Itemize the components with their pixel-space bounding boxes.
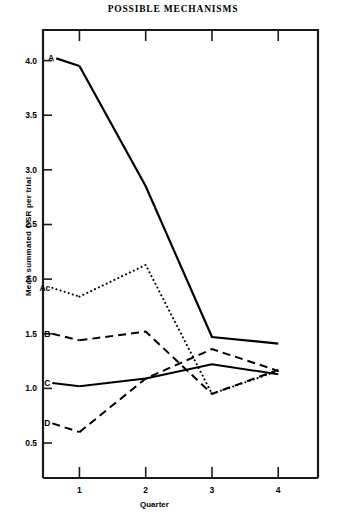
series-line-C (79, 364, 278, 386)
plot-frame (43, 30, 318, 478)
series-label-Ac: Ac (39, 283, 50, 293)
series-leader-A (56, 58, 79, 66)
series-leader-C (52, 383, 79, 386)
x-tick-label: 1 (77, 485, 82, 495)
x-axis-label: Quarter (140, 500, 169, 509)
series-label-A: A (48, 53, 54, 63)
series-label-D: D (44, 418, 50, 428)
y-tick-label: 1.0 (25, 383, 37, 393)
axis-tick-labels: 0.51.01.52.02.53.03.54.01234 (25, 56, 281, 495)
series-line-Ac (79, 265, 278, 394)
axis-ticks (43, 30, 278, 478)
series-label-B: B (44, 329, 50, 339)
y-tick-label: 4.0 (25, 56, 37, 66)
series-line-A (79, 66, 278, 344)
line-chart: 0.51.01.52.02.53.03.54.01234 AAcBCD (0, 0, 346, 532)
series-labels: AAcBCD (39, 53, 79, 432)
y-tick-label: 1.5 (25, 329, 37, 339)
y-tick-label: 0.5 (25, 438, 37, 448)
series-label-C: C (44, 378, 50, 388)
x-tick-label: 3 (210, 485, 215, 495)
series-leader-Ac (52, 288, 79, 297)
y-tick-label: 3.5 (25, 110, 37, 120)
data-series (79, 66, 278, 432)
y-tick-label: 3.0 (25, 165, 37, 175)
chart-plot-area: 0.51.01.52.02.53.03.54.01234 AAcBCD Mean… (0, 0, 346, 532)
x-tick-label: 4 (276, 485, 281, 495)
series-leader-B (52, 334, 79, 341)
series-leader-D (52, 423, 79, 432)
x-tick-label: 2 (143, 485, 148, 495)
y-axis-label: Mean summated GSR per trial (24, 177, 33, 297)
